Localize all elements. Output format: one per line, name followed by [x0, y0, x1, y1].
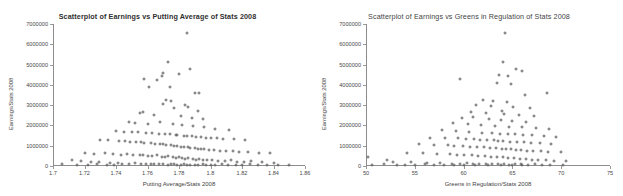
scatter-point	[454, 130, 457, 133]
scatter-point	[565, 160, 568, 163]
scatter-point	[521, 69, 524, 72]
scatter-point	[501, 156, 504, 159]
scatter-point	[370, 163, 373, 166]
x-axis-tick-label: 1.82	[237, 170, 248, 176]
scatter-point	[244, 138, 247, 141]
scatter-point	[166, 60, 169, 63]
scatter-point	[113, 163, 116, 166]
scatter-point	[277, 164, 280, 167]
scatter-point	[189, 146, 192, 149]
scatter-point	[511, 119, 514, 122]
y-axis-tick	[363, 125, 366, 126]
scatter-point	[108, 161, 111, 164]
scatter-point	[165, 143, 168, 146]
scatter-point	[201, 158, 204, 161]
scatter-point	[215, 137, 218, 140]
scatter-point	[462, 154, 465, 157]
y-axis-tick-label: 3000000	[26, 102, 48, 108]
scatter-point	[460, 117, 463, 120]
x-axis-tick-label: 55	[412, 170, 418, 176]
scatter-point	[209, 163, 212, 166]
scatter-point	[195, 135, 198, 138]
scatter-point	[144, 162, 147, 165]
scatter-point	[126, 152, 129, 155]
scatter-point	[201, 118, 204, 121]
scatter-point	[515, 67, 518, 70]
scatter-point	[417, 143, 420, 146]
x-axis-tick-label: 1.72	[79, 170, 90, 176]
scatter-point	[521, 164, 524, 167]
scatter-point	[544, 159, 547, 162]
x-axis-tick-label: 1.74	[111, 170, 122, 176]
scatter-point	[165, 99, 168, 102]
scatter-point	[471, 154, 474, 157]
scatter-point	[157, 162, 160, 165]
scatter-point	[409, 161, 412, 164]
scatter-point	[127, 162, 130, 165]
plot-area: 0100000020000003000000400000050000006000…	[53, 24, 305, 166]
scatter-point	[470, 111, 473, 114]
x-axis-tick-label: 50	[363, 170, 369, 176]
y-axis-tick	[363, 24, 366, 25]
y-axis-tick-label: 1000000	[339, 143, 361, 149]
scatter-point	[168, 133, 171, 136]
scatter-point	[493, 124, 496, 127]
scatter-point	[421, 152, 424, 155]
scatter-point	[548, 128, 551, 131]
scatter-point	[206, 159, 209, 162]
scatter-point	[382, 163, 385, 166]
x-axis-tick-label: 1.86	[300, 170, 311, 176]
scatter-point	[132, 154, 135, 157]
scatter-point	[443, 163, 446, 166]
scatter-point	[485, 112, 488, 115]
scatter-point	[429, 136, 432, 139]
y-axis-tick-label: 5000000	[26, 62, 48, 68]
scatter-point	[111, 153, 114, 156]
scatter-point	[234, 163, 237, 166]
scatter-point	[124, 140, 127, 143]
scatter-point	[200, 136, 203, 139]
scatter-point	[501, 140, 504, 143]
scatter-point	[487, 118, 490, 121]
x-axis-tick	[464, 166, 465, 169]
scatter-point	[140, 162, 143, 165]
scatter-point	[288, 163, 291, 166]
scatter-point	[560, 151, 563, 154]
scatter-point	[157, 132, 160, 135]
scatter-point	[241, 164, 244, 167]
scatter-point	[488, 146, 491, 149]
scatter-point	[229, 159, 232, 162]
scatter-point	[122, 130, 125, 133]
scatter-point	[504, 147, 507, 150]
scatter-point	[269, 152, 272, 155]
scatter-point	[217, 159, 220, 162]
scatter-point	[141, 111, 144, 114]
scatter-point	[436, 152, 439, 155]
y-axis-tick-label: 2000000	[339, 122, 361, 128]
x-axis-tick-label: 1.84	[268, 170, 279, 176]
scatter-point	[533, 163, 536, 166]
scatter-point	[179, 114, 182, 117]
scatter-point	[501, 60, 504, 63]
scatter-point	[473, 138, 476, 141]
scatter-point	[522, 133, 525, 136]
scatter-point	[507, 156, 510, 159]
scatter-point	[86, 164, 89, 167]
x-axis-tick	[211, 166, 212, 169]
scatter-point	[225, 149, 228, 152]
scatter-point	[508, 125, 511, 128]
scatter-point	[222, 137, 225, 140]
scatter-point	[465, 162, 468, 165]
scatter-point	[500, 147, 503, 150]
scatter-point	[506, 132, 509, 135]
y-axis-tick	[50, 85, 53, 86]
scatter-point	[173, 106, 176, 109]
scatter-point	[218, 149, 221, 152]
scatter-point	[468, 130, 471, 133]
scatter-point	[531, 149, 534, 152]
scatter-point	[528, 106, 531, 109]
y-axis-tick-label: 7000000	[26, 21, 48, 27]
x-axis-tick	[53, 166, 54, 169]
scatter-point	[107, 139, 110, 142]
scatter-point	[190, 135, 193, 138]
